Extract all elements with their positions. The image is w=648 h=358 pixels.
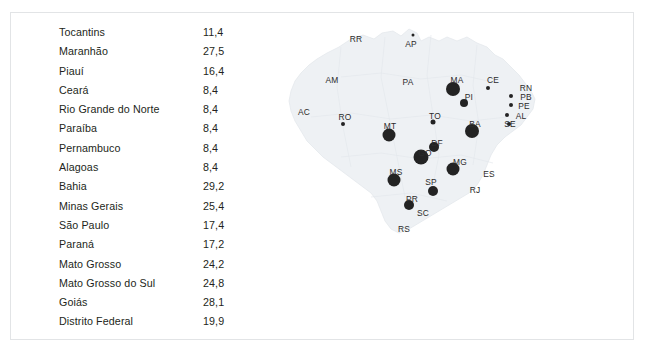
row-value: 8,4 — [203, 81, 218, 100]
table-row: Mato Grosso24,2 — [59, 255, 249, 274]
table-row: Rio Grande do Norte8,4 — [59, 100, 249, 119]
state-label-ro: RO — [339, 112, 352, 122]
state-label-mg: MG — [453, 157, 467, 167]
table-row: Goiás28,1 — [59, 293, 249, 312]
table-row: Ceará8,4 — [59, 81, 249, 100]
state-label-df: DF — [431, 138, 443, 148]
table-row: Alagoas8,4 — [59, 158, 249, 177]
row-value: 17,2 — [203, 235, 224, 254]
row-value: 29,2 — [203, 177, 224, 196]
figure-caption — [12, 350, 640, 358]
state-label-al: AL — [516, 111, 527, 121]
row-state-label: Pernambuco — [59, 139, 121, 158]
row-state-label: São Paulo — [59, 216, 109, 235]
brazil-bubble-map: RRAPAMPAACROTOMAPICERNPBPEALSEBAMTDFGOMG… — [281, 17, 631, 327]
row-state-label: Tocantins — [59, 23, 105, 42]
map-bubble-sp — [428, 186, 438, 196]
map-bubble-pe — [505, 113, 509, 117]
state-label-rs: RS — [398, 224, 410, 234]
row-value: 8,4 — [203, 100, 218, 119]
row-value: 11,4 — [203, 23, 223, 42]
row-value: 25,4 — [203, 197, 224, 216]
state-label-ms: MS — [390, 167, 403, 177]
state-label-pi: PI — [465, 92, 473, 102]
row-value: 24,8 — [203, 274, 224, 293]
state-label-es: ES — [483, 169, 495, 179]
state-label-pr: PR — [406, 194, 418, 204]
map-bubble-pb — [509, 103, 513, 107]
state-label-ap: AP — [405, 39, 417, 49]
table-row: Distrito Federal19,9 — [59, 312, 249, 331]
row-value: 19,9 — [203, 312, 224, 331]
row-state-label: Bahia — [59, 177, 87, 196]
table-row: Bahia29,2 — [59, 177, 249, 196]
state-label-se: SE — [504, 119, 516, 129]
row-state-label: Paraíba — [59, 119, 97, 138]
row-state-label: Paraná — [59, 235, 94, 254]
table-row: São Paulo17,4 — [59, 216, 249, 235]
state-label-ce: CE — [487, 75, 499, 85]
table-row: Minas Gerais25,4 — [59, 197, 249, 216]
state-value-table: Tocantins11,4Maranhão27,5Piauí16,4Ceará8… — [59, 23, 249, 332]
table-row: Maranhão27,5 — [59, 42, 249, 61]
state-label-go: GO — [418, 148, 431, 158]
row-state-label: Alagoas — [59, 158, 98, 177]
state-label-pa: PA — [403, 77, 414, 87]
row-state-label: Mato Grosso do Sul — [59, 274, 155, 293]
table-row: Pernambuco8,4 — [59, 139, 249, 158]
row-value: 17,4 — [203, 216, 224, 235]
row-value: 8,4 — [203, 139, 218, 158]
table-row: Paraná17,2 — [59, 235, 249, 254]
state-label-sc: SC — [417, 208, 429, 218]
row-state-label: Mato Grosso — [59, 255, 121, 274]
row-value: 16,4 — [203, 62, 224, 81]
map-bubble-ap — [412, 34, 415, 37]
state-label-to: TO — [429, 111, 441, 121]
map-bubble-ro — [341, 122, 345, 126]
row-value: 27,5 — [203, 42, 224, 61]
state-label-sp: SP — [425, 177, 437, 187]
row-state-label: Ceará — [59, 81, 89, 100]
state-label-ba: BA — [469, 119, 481, 129]
state-label-ac: AC — [298, 107, 310, 117]
state-label-pe: PE — [518, 101, 530, 111]
state-label-mt: MT — [384, 121, 397, 131]
state-label-rr: RR — [350, 34, 363, 44]
row-value: 8,4 — [203, 119, 218, 138]
map-bubble-rn — [509, 94, 513, 98]
table-row: Piauí16,4 — [59, 62, 249, 81]
row-state-label: Distrito Federal — [59, 312, 133, 331]
table-row: Mato Grosso do Sul24,8 — [59, 274, 249, 293]
row-state-label: Rio Grande do Norte — [59, 100, 160, 119]
map-bubble-ce — [486, 86, 490, 90]
figure-panel: Tocantins11,4Maranhão27,5Piauí16,4Ceará8… — [10, 12, 634, 340]
row-value: 28,1 — [203, 293, 224, 312]
table-row: Paraíba8,4 — [59, 119, 249, 138]
state-label-rj: RJ — [470, 185, 481, 195]
row-state-label: Maranhão — [59, 42, 108, 61]
row-value: 8,4 — [203, 158, 218, 177]
state-label-am: AM — [326, 75, 339, 85]
row-value: 24,2 — [203, 255, 224, 274]
state-label-ma: MA — [451, 75, 464, 85]
row-state-label: Goiás — [59, 293, 87, 312]
table-row: Tocantins11,4 — [59, 23, 249, 42]
row-state-label: Piauí — [59, 62, 84, 81]
row-state-label: Minas Gerais — [59, 197, 123, 216]
